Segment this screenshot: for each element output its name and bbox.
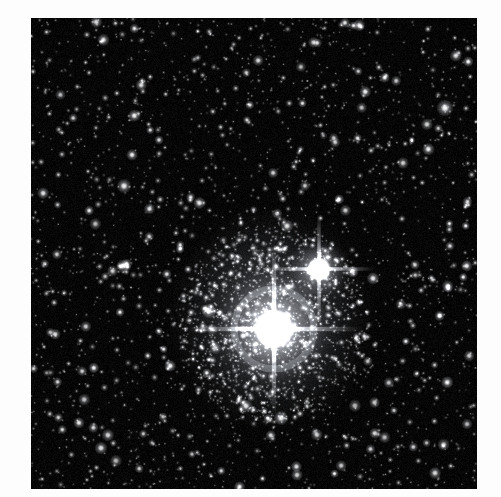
right-margin	[477, 0, 501, 497]
left-margin	[0, 0, 31, 497]
sky-image-frame	[31, 18, 477, 489]
top-margin	[0, 0, 501, 18]
star-field-canvas	[31, 18, 477, 489]
image-page: Deep-sky star field with two bright star…	[0, 0, 501, 497]
bottom-margin	[0, 489, 501, 497]
